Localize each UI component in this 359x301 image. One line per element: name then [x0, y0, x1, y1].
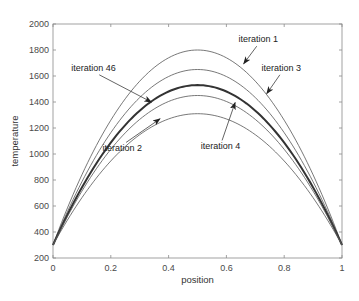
plot-frame [53, 24, 342, 258]
y-tick-label: 600 [34, 201, 49, 211]
y-tick-label: 1000 [29, 149, 49, 159]
y-tick-label: 200 [34, 253, 49, 263]
axis-ticks: 00.20.40.60.8120040060080010001200140016… [29, 19, 345, 273]
x-tick-label: 1 [339, 263, 344, 273]
y-axis-label: temperature [9, 115, 20, 166]
x-tick-label: 0 [50, 263, 55, 273]
annotation-iteration-4: iteration 4 [201, 141, 241, 151]
x-axis-label: position [181, 274, 214, 285]
y-tick-label: 800 [34, 175, 49, 185]
y-tick-label: 1600 [29, 71, 49, 81]
y-tick-label: 400 [34, 227, 49, 237]
curve-iteration-1 [53, 50, 342, 245]
curves [53, 50, 342, 245]
curve-iteration-4 [53, 96, 342, 246]
y-tick-label: 1200 [29, 123, 49, 133]
y-tick-label: 2000 [29, 19, 49, 29]
x-tick-label: 0.8 [278, 263, 291, 273]
x-tick-label: 0.2 [105, 263, 118, 273]
x-tick-label: 0.6 [220, 263, 233, 273]
plot-area-border [53, 24, 342, 258]
line-chart: iteration 1iteration 3iteration 46iterat… [0, 0, 359, 301]
y-tick-label: 1400 [29, 97, 49, 107]
annotation-iteration-2: iteration 2 [103, 143, 143, 153]
y-tick-label: 1800 [29, 45, 49, 55]
curve-iteration-2 [53, 114, 342, 245]
annotations: iteration 1iteration 3iteration 46iterat… [71, 34, 301, 153]
annotation-arrow [267, 75, 280, 94]
annotation-arrow [126, 119, 160, 142]
annotation-arrow [99, 75, 151, 102]
curve-iteration-46 [53, 85, 342, 245]
x-tick-label: 0.4 [162, 263, 175, 273]
annotation-iteration-46: iteration 46 [71, 63, 116, 73]
annotation-iteration-1: iteration 1 [238, 34, 278, 44]
annotation-iteration-3: iteration 3 [262, 63, 302, 73]
annotation-arrow [244, 46, 257, 63]
